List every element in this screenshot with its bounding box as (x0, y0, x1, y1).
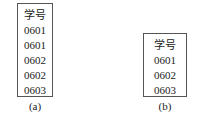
table-b: 学号 0601 0602 0603 (143, 33, 187, 97)
table-b-row: 0603 (144, 84, 186, 96)
caption-a: (a) (17, 100, 53, 112)
table-a-row: 0602 (18, 69, 52, 81)
table-a-row: 0601 (18, 24, 52, 36)
table-b-header: 学号 (144, 39, 186, 51)
table-a-header: 学号 (18, 9, 52, 21)
table-a-row: 0602 (18, 54, 52, 66)
table-a-row: 0601 (18, 39, 52, 51)
caption-b: (b) (143, 100, 187, 112)
table-a: 学号 0601 0601 0602 0602 0603 (17, 3, 53, 97)
table-b-row: 0602 (144, 69, 186, 81)
table-a-row: 0603 (18, 84, 52, 96)
table-b-row: 0601 (144, 54, 186, 66)
